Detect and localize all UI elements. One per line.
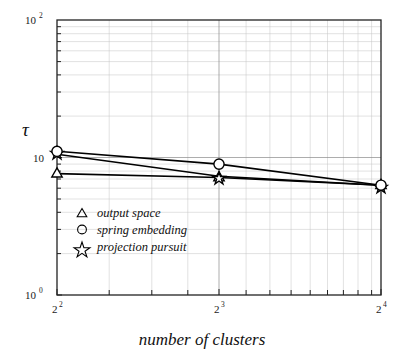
y-tick-exponent-top: 2 bbox=[39, 11, 43, 20]
x-tick-label-16: 2 4 bbox=[376, 300, 387, 315]
x-tick-label-8: 2 3 bbox=[214, 300, 225, 315]
y-tick-base-top: 10 bbox=[25, 14, 37, 26]
log-log-line-chart: 10 2 10 10 0 2 2 2 3 2 4 τ number of clu… bbox=[0, 0, 405, 358]
x-axis-title: number of clusters bbox=[139, 330, 266, 349]
y-tick-label-10: 10 bbox=[33, 152, 45, 164]
y-tick-base-mid: 10 bbox=[33, 152, 45, 164]
y-tick-exponent-bottom: 0 bbox=[39, 286, 43, 295]
y-axis-title: τ bbox=[22, 119, 30, 140]
y-tick-label-1: 10 0 bbox=[25, 286, 43, 301]
legend-label-projection-pursuit: projection pursuit bbox=[96, 240, 187, 254]
x-tick-exponent-right: 4 bbox=[383, 300, 387, 309]
marker-circle-spring-embedding bbox=[52, 146, 62, 156]
x-tick-base-left: 2 bbox=[52, 303, 58, 315]
y-tick-base-bottom: 10 bbox=[25, 289, 37, 301]
x-tick-label-4: 2 2 bbox=[52, 300, 63, 315]
x-tick-exponent-mid: 3 bbox=[221, 300, 225, 309]
marker-circle-spring-embedding bbox=[376, 180, 386, 190]
x-tick-base-mid: 2 bbox=[214, 303, 220, 315]
x-tick-exponent-left: 2 bbox=[59, 300, 63, 309]
x-tick-base-right: 2 bbox=[376, 303, 382, 315]
y-tick-label-100: 10 2 bbox=[25, 11, 43, 26]
legend-label-output-space: output space bbox=[97, 206, 161, 220]
marker-circle-spring-embedding bbox=[214, 159, 224, 169]
legend-label-spring-embedding: spring embedding bbox=[97, 223, 187, 237]
chart-figure: 10 2 10 10 0 2 2 2 3 2 4 τ number of clu… bbox=[0, 0, 405, 358]
